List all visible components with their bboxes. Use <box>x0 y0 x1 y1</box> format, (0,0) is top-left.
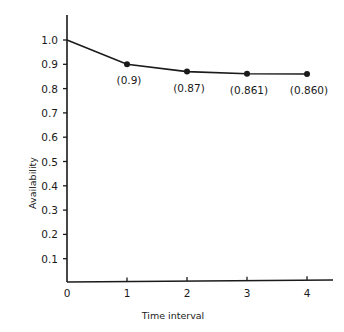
x-axis-line <box>67 280 333 282</box>
axes <box>67 15 333 282</box>
series-availability <box>67 40 310 77</box>
data-labels: (0.9)(0.87)(0.861)(0.860) <box>117 74 329 96</box>
data-point-marker <box>124 61 130 67</box>
x-axis-title: Time interval <box>141 310 205 321</box>
availability-chart: 0.10.20.30.40.50.60.70.80.91.0 01234 (0.… <box>0 0 344 332</box>
y-ticks: 0.10.20.30.40.50.60.70.80.91.0 <box>41 34 67 265</box>
y-tick-label: 0.8 <box>41 83 58 95</box>
data-point-label: (0.87) <box>173 82 205 94</box>
x-tick-label: 1 <box>124 287 131 299</box>
data-point-label: (0.9) <box>117 74 142 86</box>
x-tick-label: 2 <box>184 287 191 299</box>
data-point-label: (0.860) <box>290 84 328 96</box>
y-tick-label: 1.0 <box>41 34 58 46</box>
y-tick-label: 0.2 <box>41 228 58 240</box>
x-tick-label: 3 <box>244 287 251 299</box>
y-tick-label: 0.7 <box>41 107 58 119</box>
y-axis-title: Availability <box>27 157 38 209</box>
y-tick-label: 0.9 <box>41 58 58 70</box>
y-tick-label: 0.5 <box>41 156 58 168</box>
x-ticks: 01234 <box>64 276 311 299</box>
data-point-marker <box>244 71 250 77</box>
x-tick-label: 4 <box>304 287 311 299</box>
data-point-label: (0.861) <box>230 84 268 96</box>
y-tick-label: 0.3 <box>41 204 58 216</box>
data-point-marker <box>304 71 310 77</box>
y-tick-label: 0.6 <box>41 131 58 143</box>
y-tick-label: 0.1 <box>41 253 58 265</box>
data-point-marker <box>184 69 190 75</box>
x-tick-label: 0 <box>64 287 71 299</box>
y-tick-label: 0.4 <box>41 180 58 192</box>
